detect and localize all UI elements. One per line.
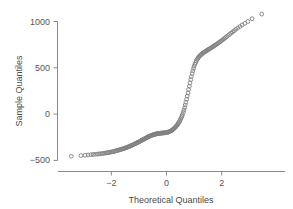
data-point xyxy=(260,12,264,16)
y-axis-title: Sample Quantiles xyxy=(14,55,24,127)
y-tick-label-500: 500 xyxy=(35,63,50,73)
x-tick-label-neg2: −2 xyxy=(106,178,116,188)
data-point xyxy=(79,154,83,158)
x-tick-label-2: 2 xyxy=(219,178,224,188)
y-tick-label-neg500: −500 xyxy=(30,155,50,165)
data-point xyxy=(246,20,250,24)
y-tick-label-1000: 1000 xyxy=(30,17,50,27)
x-axis-title: Theoretical Quantiles xyxy=(128,195,214,205)
y-tick-label-0: 0 xyxy=(45,109,50,119)
qq-plot-figure: 1000 500 0 −500 −2 0 2 Theoretical Quant… xyxy=(0,0,293,209)
data-point-group xyxy=(69,12,263,158)
y-axis-ticks xyxy=(54,22,58,161)
x-axis-ticks xyxy=(111,172,221,176)
data-point xyxy=(250,17,254,21)
x-tick-label-0: 0 xyxy=(164,178,169,188)
data-point xyxy=(69,154,73,158)
qq-plot-canvas: 1000 500 0 −500 −2 0 2 Theoretical Quant… xyxy=(0,0,293,209)
